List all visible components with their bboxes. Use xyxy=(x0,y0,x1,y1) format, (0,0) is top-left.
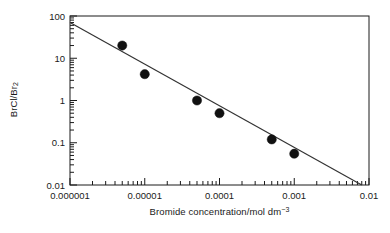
data-point-marker xyxy=(267,135,276,144)
y-axis-title-wrapper: BrCl/Br2 xyxy=(4,0,24,200)
x-tick-label: 0.000001 xyxy=(50,190,90,201)
x-tick-label: 0.0001 xyxy=(205,190,234,201)
x-tick-label: 0.01 xyxy=(360,190,379,201)
x-axis-title-wrapper: Bromide concentration/mol dm−3 xyxy=(70,206,369,217)
figure-container: 1001010.10.01 0.0000010.000010.00010.001… xyxy=(0,0,390,233)
plot-area-border xyxy=(70,16,369,185)
y-tick-label: 0.1 xyxy=(52,137,65,148)
data-point-marker xyxy=(192,96,201,105)
y-tick-label: 10 xyxy=(54,53,65,64)
plot-frame xyxy=(70,16,369,185)
x-tick-label: 0.00001 xyxy=(128,190,162,201)
y-tick-label: 100 xyxy=(49,11,65,22)
data-point-marker xyxy=(118,41,127,50)
data-point-marker xyxy=(290,149,299,158)
y-axis-title-main: BrCl/Br xyxy=(8,86,19,117)
y-tick-label: 0.01 xyxy=(47,180,66,191)
x-axis-title-main: Bromide concentration/mol dm xyxy=(150,206,282,217)
x-axis-title-superscript: −3 xyxy=(281,206,289,213)
log-log-scatter-plot: 1001010.10.01 0.0000010.000010.00010.001… xyxy=(0,0,390,233)
x-axis-title: Bromide concentration/mol dm−3 xyxy=(150,206,290,217)
y-axis-title: BrCl/Br2 xyxy=(8,82,19,117)
y-axis-tick-labels: 1001010.10.01 xyxy=(47,11,66,191)
data-point-marker xyxy=(140,70,149,79)
data-point-marker xyxy=(215,109,224,118)
x-tick-label: 0.001 xyxy=(282,190,306,201)
y-axis-title-subscript: 2 xyxy=(13,82,20,86)
y-tick-label: 1 xyxy=(60,95,65,106)
x-axis-tick-labels: 0.0000010.000010.00010.0010.01 xyxy=(50,190,378,201)
